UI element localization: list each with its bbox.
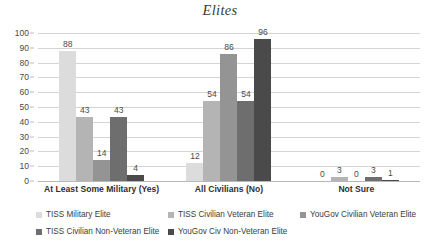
bar-group: 884314434 bbox=[38, 33, 165, 181]
y-axis-tick-mark bbox=[30, 62, 34, 63]
bar-slot: 1 bbox=[382, 33, 399, 181]
legend-label: TISS Civilian Non-Veteran Elite bbox=[46, 227, 159, 236]
y-axis-tick-mark bbox=[30, 136, 34, 137]
x-axis-category-label: At Least Some Military (Yes) bbox=[38, 184, 165, 194]
legend-label: TISS Civilian Veteran Elite bbox=[178, 210, 274, 219]
y-axis-tick-mark bbox=[30, 47, 34, 48]
y-axis-tick-mark bbox=[30, 166, 34, 167]
gridline bbox=[38, 181, 420, 182]
y-axis-tick-label: 50 bbox=[20, 102, 29, 112]
bar[interactable] bbox=[365, 177, 382, 181]
y-axis-tick-label: 90 bbox=[20, 43, 29, 53]
y-axis-tick-label: 70 bbox=[20, 72, 29, 82]
bar[interactable] bbox=[59, 51, 76, 181]
x-axis-category-label: All Civilians (No) bbox=[165, 184, 292, 194]
y-axis-tick-label: 100 bbox=[15, 28, 29, 38]
y-axis-tick-mark bbox=[30, 181, 34, 182]
y-axis-tick-mark bbox=[30, 92, 34, 93]
bar-value-label: 0 bbox=[320, 169, 325, 179]
y-axis-tick-mark bbox=[30, 107, 34, 108]
bar-slot: 54 bbox=[203, 33, 220, 181]
bar[interactable] bbox=[186, 163, 203, 181]
bar-value-label: 88 bbox=[63, 39, 72, 49]
bar-value-label: 4 bbox=[133, 163, 138, 173]
bar-value-label: 96 bbox=[258, 27, 267, 37]
bar-value-label: 54 bbox=[207, 89, 216, 99]
bar-slot: 3 bbox=[331, 33, 348, 181]
legend-label: TISS Military Elite bbox=[46, 210, 111, 219]
bar-chart: Elites 1009080706050403020100 8843144341… bbox=[0, 0, 440, 250]
legend-swatch-icon bbox=[168, 229, 174, 235]
legend-label: YouGov Civilian Veteran Elite bbox=[310, 210, 416, 219]
bar-slot: 3 bbox=[365, 33, 382, 181]
bar-value-label: 3 bbox=[371, 165, 376, 175]
bar-groups: 884314434125486549603031 bbox=[38, 33, 420, 181]
bar-slot: 86 bbox=[220, 33, 237, 181]
bar-value-label: 3 bbox=[337, 165, 342, 175]
chart-title: Elites bbox=[0, 2, 440, 19]
bar-value-label: 54 bbox=[241, 89, 250, 99]
y-axis-tick-mark bbox=[30, 121, 34, 122]
chart-legend: TISS Military EliteTISS Civilian Veteran… bbox=[36, 206, 432, 240]
bar-value-label: 43 bbox=[114, 105, 123, 115]
bar-group-bars: 03031 bbox=[293, 33, 420, 181]
legend-swatch-icon bbox=[168, 212, 174, 218]
bar[interactable] bbox=[127, 175, 144, 181]
bar-value-label: 86 bbox=[224, 42, 233, 52]
y-axis-tick-label: 40 bbox=[20, 117, 29, 127]
bar[interactable] bbox=[110, 117, 127, 181]
bar[interactable] bbox=[331, 177, 348, 181]
bar-slot: 0 bbox=[314, 33, 331, 181]
y-axis-tick-mark bbox=[30, 77, 34, 78]
bar[interactable] bbox=[254, 39, 271, 181]
bar[interactable] bbox=[382, 180, 399, 181]
bar-value-label: 43 bbox=[80, 105, 89, 115]
bar-slot: 54 bbox=[237, 33, 254, 181]
bar-slot: 43 bbox=[76, 33, 93, 181]
bar-slot: 96 bbox=[254, 33, 271, 181]
bar-group-bars: 884314434 bbox=[38, 33, 165, 181]
legend-item[interactable]: TISS Civilian Veteran Elite bbox=[168, 206, 300, 223]
bar-group-bars: 1254865496 bbox=[165, 33, 292, 181]
y-axis-tick-label: 80 bbox=[20, 58, 29, 68]
bar[interactable] bbox=[93, 160, 110, 181]
bar-slot: 4 bbox=[127, 33, 144, 181]
bar-value-label: 1 bbox=[388, 168, 393, 178]
legend-item[interactable]: YouGov Civilian Veteran Elite bbox=[300, 206, 432, 223]
bar[interactable] bbox=[220, 54, 237, 181]
legend-swatch-icon bbox=[36, 212, 42, 218]
bar-slot: 14 bbox=[93, 33, 110, 181]
y-axis-tick-label: 20 bbox=[20, 146, 29, 156]
legend-item[interactable]: TISS Civilian Non-Veteran Elite bbox=[36, 223, 168, 240]
bar[interactable] bbox=[76, 117, 93, 181]
bar-slot: 0 bbox=[348, 33, 365, 181]
bar-slot: 88 bbox=[59, 33, 76, 181]
bar[interactable] bbox=[237, 101, 254, 181]
bar-slot: 43 bbox=[110, 33, 127, 181]
bar-group: 03031 bbox=[293, 33, 420, 181]
x-axis-category-label: Not Sure bbox=[293, 184, 420, 194]
legend-swatch-icon bbox=[300, 212, 306, 218]
y-axis-tick-label: 60 bbox=[20, 87, 29, 97]
legend-item[interactable]: TISS Military Elite bbox=[36, 206, 168, 223]
y-axis-tick-mark bbox=[30, 151, 34, 152]
bar-group: 1254865496 bbox=[165, 33, 292, 181]
bar[interactable] bbox=[203, 101, 220, 181]
y-axis-tick-label: 10 bbox=[20, 161, 29, 171]
legend-label: YouGov Civ Non-Veteran Elite bbox=[178, 227, 287, 236]
bar-slot: 12 bbox=[186, 33, 203, 181]
x-axis: At Least Some Military (Yes)All Civilian… bbox=[38, 184, 420, 194]
bar-value-label: 12 bbox=[190, 151, 199, 161]
y-axis-tick-mark bbox=[30, 33, 34, 34]
y-axis: 1009080706050403020100 bbox=[0, 33, 34, 181]
legend-item[interactable]: YouGov Civ Non-Veteran Elite bbox=[168, 223, 300, 240]
legend-swatch-icon bbox=[36, 229, 42, 235]
y-axis-tick-label: 0 bbox=[24, 176, 29, 186]
y-axis-tick-label: 30 bbox=[20, 132, 29, 142]
bar-value-label: 14 bbox=[97, 148, 106, 158]
plot-area: 884314434125486549603031 bbox=[38, 33, 420, 181]
bar-value-label: 0 bbox=[354, 169, 359, 179]
